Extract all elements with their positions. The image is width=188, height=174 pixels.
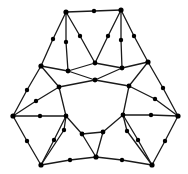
graph-edge-B-b1 xyxy=(108,10,121,36)
graph-node-LB xyxy=(38,162,43,167)
graph-node-B xyxy=(118,7,123,12)
graph-node-m2 xyxy=(120,158,124,162)
graph-node-K xyxy=(64,114,69,119)
graph-edge-H-F xyxy=(95,68,122,80)
graph-edge-T-B xyxy=(94,10,121,11)
graph-edge-H-Q xyxy=(95,80,129,86)
graph-edge-h1-BM xyxy=(82,134,96,157)
graph-node-f3 xyxy=(125,129,129,133)
graph-node-d3 xyxy=(62,128,66,132)
graph-node-c1 xyxy=(25,88,29,92)
graph-node-R xyxy=(175,113,180,118)
graph-node-a3 xyxy=(78,34,82,38)
graph-node-E xyxy=(145,59,150,64)
graph-node-r1 xyxy=(149,113,153,117)
graph-node-h1 xyxy=(80,132,85,137)
graph-edge-a2-D xyxy=(66,42,68,71)
graph-edge-Q-e2 xyxy=(129,86,155,99)
graph-node-H xyxy=(93,78,98,83)
graph-edge-C-c1 xyxy=(27,66,41,90)
graph-edge-R-f1 xyxy=(165,116,178,141)
graph-node-N xyxy=(121,113,126,118)
graph-edge-b3-E xyxy=(134,36,148,62)
graph-edge-G-F xyxy=(95,63,122,68)
graph-edge-f3-RB xyxy=(127,131,152,165)
graph-edge-h1-h2 xyxy=(82,132,103,134)
graph-diagram xyxy=(0,0,188,174)
graph-edge-D-H xyxy=(68,71,95,80)
graph-edge-b2-F xyxy=(121,40,122,68)
graph-node-f2 xyxy=(136,138,140,142)
graph-node-b1 xyxy=(106,34,110,38)
graph-node-C xyxy=(38,63,43,68)
graph-node-c2 xyxy=(34,99,38,103)
graph-node-d1 xyxy=(25,139,29,143)
graph-node-BM xyxy=(93,154,98,159)
graph-node-Q xyxy=(127,84,132,89)
graph-node-b2 xyxy=(119,38,123,42)
graph-edge-L-d1 xyxy=(13,116,27,141)
graph-node-d2 xyxy=(52,138,56,142)
graph-nodes xyxy=(10,7,180,167)
graph-node-b3 xyxy=(132,34,136,38)
graph-edge-Q-N xyxy=(123,86,129,115)
graph-edge-P-c2 xyxy=(36,87,59,101)
graph-edge-m2-RB xyxy=(122,160,152,165)
graph-node-f1 xyxy=(163,139,167,143)
graph-node-L xyxy=(10,113,15,118)
graph-node-a1 xyxy=(51,37,55,41)
graph-edge-a3-G xyxy=(80,36,95,63)
graph-node-T xyxy=(92,9,96,13)
graph-edge-A-T xyxy=(66,11,94,12)
graph-edge-K-h1 xyxy=(66,116,82,134)
graph-node-e2 xyxy=(153,97,157,101)
graph-edge-A-a3 xyxy=(66,12,80,36)
graph-edge-e2-R xyxy=(155,99,178,116)
graph-edge-R-r1 xyxy=(151,115,178,116)
graph-node-m1 xyxy=(68,158,72,162)
graph-edge-f1-RB xyxy=(152,141,165,165)
graph-edge-e1-R xyxy=(163,88,178,116)
graph-node-F xyxy=(120,66,125,71)
graph-node-RB xyxy=(149,162,154,167)
graph-node-G xyxy=(93,61,98,66)
graph-node-h2 xyxy=(101,130,106,135)
graph-edge-LB-m1 xyxy=(41,160,70,165)
graph-node-l1 xyxy=(38,114,42,118)
graph-edge-E-e1 xyxy=(148,62,163,88)
graph-node-A xyxy=(63,9,68,14)
graph-edge-d3-LB xyxy=(41,130,64,165)
graph-edge-A-a1 xyxy=(53,12,66,39)
graph-edge-d1-LB xyxy=(27,141,41,165)
graph-node-D xyxy=(66,69,71,74)
graph-edge-b1-G xyxy=(95,36,108,63)
graph-node-a2 xyxy=(64,40,68,44)
graph-edge-BM-m2 xyxy=(96,157,122,160)
graph-edge-D-G xyxy=(68,63,95,71)
graph-edge-N-h2 xyxy=(103,115,123,132)
graph-edge-h2-BM xyxy=(96,132,103,157)
graph-node-P xyxy=(57,85,62,90)
graph-node-e1 xyxy=(161,86,165,90)
graph-edges xyxy=(13,10,178,165)
graph-edge-B-b3 xyxy=(121,10,134,36)
graph-edge-a1-C xyxy=(41,39,53,66)
graph-edge-H-P xyxy=(59,80,95,87)
graph-edge-P-K xyxy=(59,87,66,116)
graph-edge-m1-BM xyxy=(70,157,96,160)
